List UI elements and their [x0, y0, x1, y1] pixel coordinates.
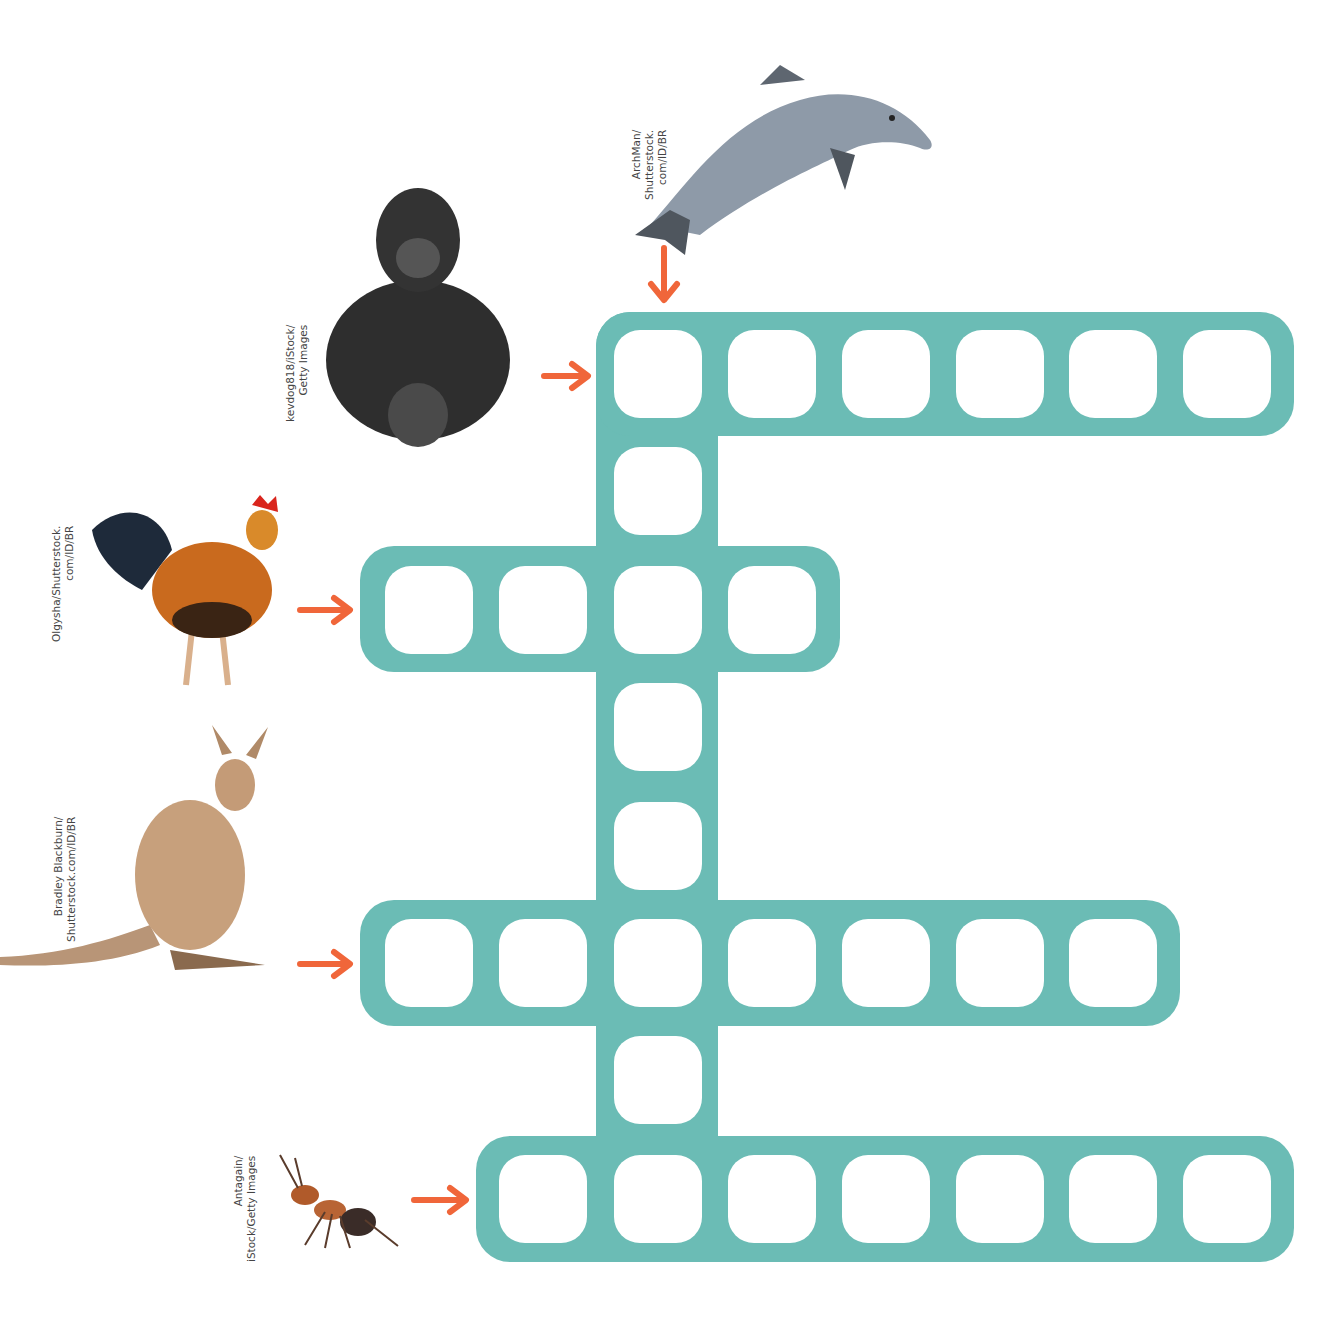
ant-image [270, 1150, 405, 1250]
cell-input[interactable] [1069, 919, 1161, 1009]
cell-r5-c5[interactable] [956, 919, 1044, 1007]
cell-r0-c7[interactable] [1183, 330, 1271, 418]
credit-line: iStock/Getty Images [245, 1156, 258, 1262]
cell-input[interactable] [956, 1155, 1048, 1245]
cell-input[interactable] [499, 1155, 591, 1245]
cell-input[interactable] [728, 566, 820, 656]
credit-line: Antagain/ [232, 1156, 245, 1262]
cell-r5-c0[interactable] [385, 919, 473, 1007]
credit-line: ArchMan/ [630, 130, 643, 200]
cell-input[interactable] [614, 447, 706, 537]
credit-dolphin: ArchMan/ Shutterstock. com/ID/BR [630, 130, 669, 200]
cell-input[interactable] [614, 802, 706, 892]
cell-input[interactable] [728, 919, 820, 1009]
credit-line: Shutterstock. [643, 130, 656, 200]
cell-r7-c4[interactable] [842, 1155, 930, 1243]
cell-input[interactable] [614, 919, 706, 1009]
cell-input[interactable] [1069, 1155, 1161, 1245]
cell-r7-c5[interactable] [956, 1155, 1044, 1243]
cell-input[interactable] [842, 919, 934, 1009]
credit-gorilla: kevdog818/iStock/ Getty Images [284, 325, 310, 422]
cell-r4-c2[interactable] [614, 802, 702, 890]
cell-r7-c7[interactable] [1183, 1155, 1271, 1243]
cell-input[interactable] [614, 1155, 706, 1245]
cell-input[interactable] [499, 566, 591, 656]
cell-r2-c3[interactable] [728, 566, 816, 654]
cell-r0-c3[interactable] [728, 330, 816, 418]
cell-r5-c6[interactable] [1069, 919, 1157, 1007]
credit-line: Olgysha/Shutterstock. [50, 526, 63, 642]
cell-r1-c2[interactable] [614, 447, 702, 535]
rooster-image [82, 490, 287, 695]
cell-input[interactable] [499, 919, 591, 1009]
cell-r2-c0[interactable] [385, 566, 473, 654]
credit-line: Shutterstock.com/ID/BR [65, 817, 78, 942]
credit-ant: Antagain/ iStock/Getty Images [232, 1156, 258, 1262]
cell-input[interactable] [614, 566, 706, 656]
cell-r3-c2[interactable] [614, 683, 702, 771]
cell-r5-c1[interactable] [499, 919, 587, 1007]
cell-input[interactable] [956, 330, 1048, 420]
credit-line: com/ID/BR [656, 130, 669, 200]
cell-input[interactable] [1183, 1155, 1275, 1245]
cell-input[interactable] [614, 1036, 706, 1126]
cell-input[interactable] [842, 330, 934, 420]
cell-r0-c6[interactable] [1069, 330, 1157, 418]
gorilla-image [318, 180, 518, 455]
credit-line: kevdog818/iStock/ [284, 325, 297, 422]
cell-r2-c2[interactable] [614, 566, 702, 654]
arrow-right-icon [296, 948, 354, 980]
cell-r0-c4[interactable] [842, 330, 930, 418]
cell-input[interactable] [728, 330, 820, 420]
arrow-right-icon [410, 1184, 470, 1216]
cell-r0-c2[interactable] [614, 330, 702, 418]
cell-r2-c1[interactable] [499, 566, 587, 654]
arrow-right-icon [540, 360, 592, 392]
cell-r5-c2[interactable] [614, 919, 702, 1007]
cell-input[interactable] [385, 919, 477, 1009]
cell-r7-c1[interactable] [499, 1155, 587, 1243]
cell-input[interactable] [1069, 330, 1161, 420]
cell-r6-c2[interactable] [614, 1036, 702, 1124]
cell-input[interactable] [1183, 330, 1275, 420]
cell-r7-c6[interactable] [1069, 1155, 1157, 1243]
arrow-right-icon [296, 594, 354, 626]
credit-line: Getty Images [297, 325, 310, 422]
cell-input[interactable] [728, 1155, 820, 1245]
cell-r0-c5[interactable] [956, 330, 1044, 418]
cell-input[interactable] [614, 683, 706, 773]
cell-r5-c4[interactable] [842, 919, 930, 1007]
credit-kangaroo: Bradley Blackburn/ Shutterstock.com/ID/B… [52, 817, 78, 942]
cell-input[interactable] [842, 1155, 934, 1245]
cell-r7-c2[interactable] [614, 1155, 702, 1243]
cell-input[interactable] [614, 330, 706, 420]
credit-line: com/ID/BR [63, 526, 76, 642]
dolphin-image [630, 60, 945, 255]
credit-rooster: Olgysha/Shutterstock. com/ID/BR [50, 526, 76, 642]
cell-input[interactable] [956, 919, 1048, 1009]
credit-line: Bradley Blackburn/ [52, 817, 65, 942]
kangaroo-image [0, 725, 275, 975]
cell-input[interactable] [385, 566, 477, 656]
cell-r5-c3[interactable] [728, 919, 816, 1007]
cell-r7-c3[interactable] [728, 1155, 816, 1243]
